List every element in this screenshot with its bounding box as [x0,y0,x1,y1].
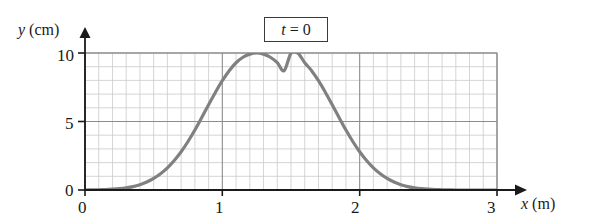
wave-pulse-figure: y (cm) x (m) 10 5 0 0 1 2 3 t = 0 [0,0,595,224]
x-tick-label-3: 3 [487,199,496,216]
x-axis-label-unit: (m) [528,195,555,212]
y-tick-label-10: 10 [57,47,74,64]
y-tick-label-0: 0 [65,182,74,199]
x-tick-label-1: 1 [215,199,224,216]
y-axis-label-unit: (cm) [25,21,59,38]
time-annotation-text: t = 0 [281,22,310,38]
x-axis-label: x (m) [521,196,555,212]
time-annotation-box: t = 0 [264,17,328,42]
time-annotation-value: = 0 [286,21,311,38]
y-tick-label-5: 5 [65,115,74,132]
x-tick-label-0: 0 [78,199,87,216]
x-tick-label-2: 2 [351,199,360,216]
y-axis-label: y (cm) [18,22,59,38]
